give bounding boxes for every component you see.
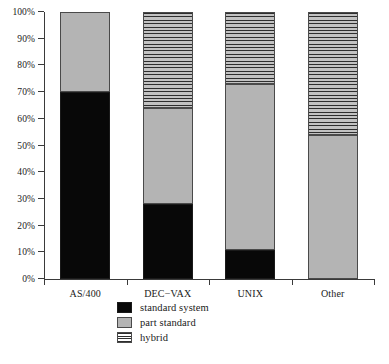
bar-other [308, 12, 358, 279]
legend-label-hybrid: hybrid [140, 332, 168, 343]
x-tick [292, 279, 293, 285]
legend-label-part-standard: part standard [140, 317, 196, 328]
y-tick-label: 70% [17, 88, 35, 98]
bar-segment-hybrid [225, 12, 275, 84]
legend-item-hybrid: hybrid [117, 330, 209, 345]
y-tick [38, 251, 44, 252]
bar-segment-part [225, 84, 275, 250]
y-tick-label: 50% [17, 141, 35, 151]
x-axis-label: Other [321, 288, 345, 300]
y-tick [38, 118, 44, 119]
bar-segment-hybrid [143, 12, 193, 108]
bar-segment-part [143, 108, 193, 204]
y-tick [38, 171, 44, 172]
bar-segment-standard [143, 204, 193, 279]
bar-unix [225, 12, 275, 279]
y-tick-label: 60% [17, 114, 35, 124]
chart-legend: standard system part standard hybrid [117, 300, 209, 345]
y-tick-label: 100% [12, 8, 35, 18]
swatch-black-icon [117, 302, 132, 313]
x-tick [209, 279, 210, 285]
y-tick-label: 10% [17, 248, 35, 258]
bar-segment-part [308, 135, 358, 279]
y-axis-line [44, 12, 45, 280]
y-tick [38, 38, 44, 39]
y-tick [38, 11, 44, 12]
bar-dec-vax [143, 12, 193, 279]
y-tick-label: 80% [17, 61, 35, 71]
x-axis-label: UNIX [237, 288, 263, 300]
swatch-striped-icon [117, 332, 132, 343]
legend-item-part-standard: part standard [117, 315, 209, 330]
y-tick [38, 198, 44, 199]
stacked-bar-chart: 0%10%20%30%40%50%60%70%80%90%100% AS/400… [0, 0, 389, 364]
x-tick [374, 279, 375, 285]
legend-item-standard-system: standard system [117, 300, 209, 315]
plot-area: 0%10%20%30%40%50%60%70%80%90%100% AS/400… [44, 12, 374, 280]
x-tick [44, 279, 45, 285]
legend-label-standard-system: standard system [140, 302, 209, 313]
bar-segment-standard [225, 250, 275, 279]
y-tick-label: 90% [17, 34, 35, 44]
y-tick [38, 91, 44, 92]
bar-segment-part [60, 12, 110, 92]
y-tick [38, 64, 44, 65]
y-tick [38, 225, 44, 226]
y-tick-label: 20% [17, 221, 35, 231]
x-axis-label: DEC−VAX [144, 288, 191, 300]
y-tick-label: 30% [17, 194, 35, 204]
y-tick-label: 0% [22, 275, 35, 285]
bar-segment-standard [60, 92, 110, 279]
bar-segment-hybrid [308, 12, 358, 135]
x-axis-label: AS/400 [70, 288, 101, 300]
y-tick [38, 145, 44, 146]
swatch-grey-icon [117, 317, 132, 328]
x-tick [127, 279, 128, 285]
y-tick-label: 40% [17, 168, 35, 178]
bar-as-400 [60, 12, 110, 279]
